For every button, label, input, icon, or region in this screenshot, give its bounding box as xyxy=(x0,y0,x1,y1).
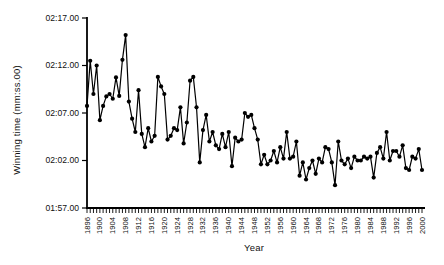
x-tick-label: 1896 xyxy=(83,217,92,234)
data-point-marker xyxy=(317,157,321,161)
x-tick-label: 1956 xyxy=(276,217,285,234)
x-tick-label: 1960 xyxy=(289,217,298,234)
data-point-marker xyxy=(198,160,202,164)
data-point-marker xyxy=(381,157,385,161)
data-point-marker xyxy=(159,84,163,88)
data-point-marker xyxy=(191,75,195,79)
data-point-marker xyxy=(265,162,269,166)
data-point-marker xyxy=(249,113,253,117)
x-tick-label: 1904 xyxy=(108,217,117,234)
data-point-marker xyxy=(275,160,279,164)
data-point-marker xyxy=(420,168,424,172)
x-axis-title: Year xyxy=(244,242,264,253)
data-point-marker xyxy=(178,105,182,109)
data-point-marker xyxy=(223,145,227,149)
x-tick-label: 1944 xyxy=(237,217,246,234)
x-tick-label: 1992 xyxy=(392,217,401,234)
data-point-marker xyxy=(117,94,121,98)
data-point-marker xyxy=(252,126,256,130)
x-tick-label: 1928 xyxy=(186,217,195,234)
y-tick-label: 02:07.00 xyxy=(46,108,80,118)
data-point-marker xyxy=(394,149,398,153)
data-point-marker xyxy=(85,104,89,108)
data-point-marker xyxy=(397,155,401,159)
y-tick-label: 02:02.00 xyxy=(46,155,80,165)
data-point-marker xyxy=(336,139,340,143)
data-point-marker xyxy=(217,147,221,151)
data-point-marker xyxy=(343,162,347,166)
data-point-marker xyxy=(346,157,350,161)
y-axis-title: Winning time (mm:ss.00) xyxy=(11,65,22,175)
data-point-marker xyxy=(101,104,105,108)
y-tick-label: 02:12.00 xyxy=(46,60,80,70)
y-tick-label: 02:17.00 xyxy=(46,13,80,23)
data-point-marker xyxy=(185,120,189,124)
data-point-marker xyxy=(269,158,273,162)
data-point-marker xyxy=(359,158,363,162)
data-point-marker xyxy=(304,177,308,181)
data-point-marker xyxy=(165,138,169,142)
data-point-marker xyxy=(188,79,192,83)
data-point-marker xyxy=(201,128,205,132)
data-point-marker xyxy=(320,160,324,164)
data-point-marker xyxy=(243,111,247,115)
x-tick-label: 1996 xyxy=(405,217,414,234)
data-point-marker xyxy=(352,155,356,159)
data-point-marker xyxy=(294,139,298,143)
data-point-marker xyxy=(349,166,353,170)
data-point-marker xyxy=(204,113,208,117)
x-tick-label: 1900 xyxy=(95,217,104,234)
data-point-marker xyxy=(214,143,218,147)
data-point-marker xyxy=(140,132,144,136)
data-point-marker xyxy=(333,183,337,187)
data-point-marker xyxy=(285,130,289,134)
data-point-marker xyxy=(143,145,147,149)
x-tick-label: 1912 xyxy=(134,217,143,234)
data-point-marker xyxy=(182,141,186,145)
x-tick-label: 1980 xyxy=(353,217,362,234)
x-tick-label: 1940 xyxy=(224,217,233,234)
data-point-marker xyxy=(194,105,198,109)
x-tick-label: 1988 xyxy=(379,217,388,234)
data-point-marker xyxy=(378,145,382,149)
x-tick-label: 1924 xyxy=(173,217,182,234)
data-point-marker xyxy=(281,157,285,161)
x-tick-label: 1972 xyxy=(327,217,336,234)
data-point-marker xyxy=(95,63,99,67)
x-tick-label: 1968 xyxy=(314,217,323,234)
data-point-marker xyxy=(175,128,179,132)
x-tick-label: 1964 xyxy=(302,217,311,234)
chart-figure: 02:17.0002:12.0002:07.0002:02.0001:57.00… xyxy=(0,0,444,265)
data-point-marker xyxy=(384,130,388,134)
data-point-marker xyxy=(169,134,173,138)
data-point-marker xyxy=(230,164,234,168)
data-point-marker xyxy=(326,147,330,151)
x-tick-label: 1932 xyxy=(198,217,207,234)
data-point-marker xyxy=(291,155,295,159)
data-point-marker xyxy=(262,153,266,157)
data-point-marker xyxy=(127,100,131,104)
data-point-marker xyxy=(227,130,231,134)
data-point-marker xyxy=(162,92,166,96)
data-point-marker xyxy=(114,75,118,79)
data-point-marker xyxy=(211,130,215,134)
data-point-marker xyxy=(307,166,311,170)
x-tick-label: 1952 xyxy=(263,217,272,234)
data-point-marker xyxy=(259,162,263,166)
x-tick-label: 1908 xyxy=(121,217,130,234)
data-point-marker xyxy=(240,138,244,142)
data-point-marker xyxy=(298,174,302,178)
data-point-marker xyxy=(278,145,282,149)
data-point-marker xyxy=(207,139,211,143)
data-point-marker xyxy=(130,117,134,121)
data-point-marker xyxy=(149,139,153,143)
data-point-marker xyxy=(146,126,150,130)
data-point-marker xyxy=(111,97,115,101)
x-tick-label: 1976 xyxy=(340,217,349,234)
plot-area: 02:17.0002:12.0002:07.0002:02.0001:57.00… xyxy=(0,0,444,265)
data-point-marker xyxy=(310,158,314,162)
data-point-marker xyxy=(133,130,137,134)
data-point-marker xyxy=(220,132,224,136)
y-tick-label: 01:57.00 xyxy=(46,203,80,213)
data-point-marker xyxy=(388,158,392,162)
